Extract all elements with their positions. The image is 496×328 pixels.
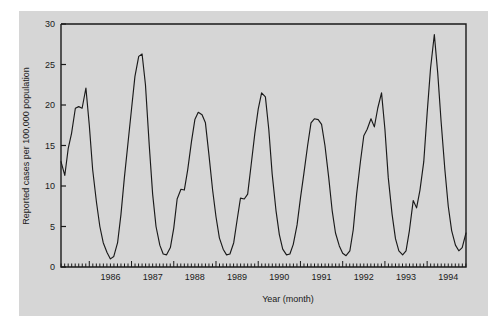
- y-tick-label: 5: [50, 222, 55, 232]
- data-series-line: [61, 35, 466, 259]
- x-tick-label: 1989: [227, 272, 247, 282]
- y-tick-label: 0: [50, 262, 55, 272]
- x-axis-title: Year (month): [262, 294, 314, 304]
- x-axis-ticks: 198619871988198919901991199219931994: [61, 261, 466, 282]
- y-axis-ticks: 051015202530: [45, 19, 66, 272]
- plot-frame: [61, 24, 466, 267]
- y-axis-title: Reported cases per 100,000 population: [21, 67, 31, 225]
- line-chart: 051015202530 198619871988198919901991199…: [0, 0, 496, 328]
- y-tick-label: 25: [45, 60, 55, 70]
- figure-canvas: 051015202530 198619871988198919901991199…: [0, 0, 496, 328]
- x-tick-label: 1990: [269, 272, 289, 282]
- x-tick-label: 1988: [185, 272, 205, 282]
- x-tick-label: 1986: [100, 272, 120, 282]
- y-tick-label: 15: [45, 141, 55, 151]
- y-tick-label: 30: [45, 19, 55, 29]
- y-tick-label: 10: [45, 181, 55, 191]
- y-tick-label: 20: [45, 100, 55, 110]
- x-tick-label: 1992: [354, 272, 374, 282]
- x-tick-label: 1993: [396, 272, 416, 282]
- x-tick-label: 1991: [312, 272, 332, 282]
- x-tick-label: 1994: [438, 272, 458, 282]
- x-tick-label: 1987: [143, 272, 163, 282]
